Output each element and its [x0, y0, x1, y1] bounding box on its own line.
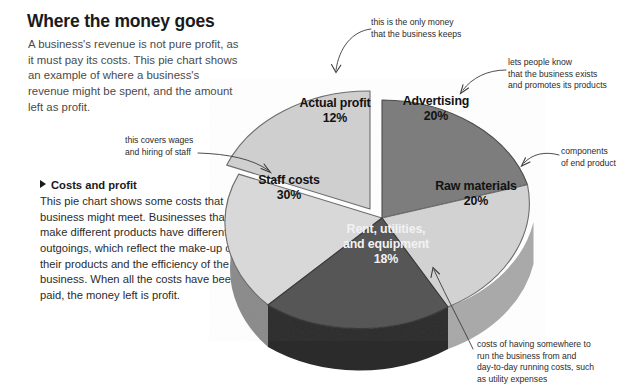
arrowhead-advertising	[461, 85, 469, 94]
annotation-advertising: lets people know that the business exist…	[508, 57, 636, 92]
annotation-rent-utilities-equipment: costs of having somewhere to run the bus…	[477, 339, 639, 386]
leader-line-actual-profit	[336, 29, 371, 70]
annotation-actual-profit: this is the only money that the business…	[371, 17, 497, 40]
leader-line-advertising	[463, 70, 506, 90]
annotation-staff-costs: this covers wages and hiring of staff	[125, 135, 225, 158]
infographic-page: Where the money goes A business's revenu…	[0, 0, 642, 392]
leader-line-raw-materials	[524, 153, 559, 163]
pie-chart: Actual profit 12% Advertising 20% Raw ma…	[0, 0, 642, 392]
annotation-raw-materials: components of end product	[561, 146, 641, 169]
